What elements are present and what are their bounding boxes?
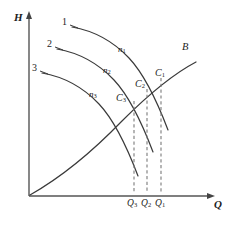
operating-point-label-c3: C3 [116, 93, 126, 104]
curve-number-2: 2 [47, 39, 52, 49]
system-curve-b [30, 62, 196, 195]
x-tick-label-q2: Q2 [141, 199, 151, 209]
operating-point-c3-sub: 3 [123, 96, 126, 103]
curve-number-1: 1 [62, 17, 67, 27]
speed-label-n1-sub: 1 [123, 47, 126, 54]
operating-point-c2-sub: 2 [142, 82, 145, 89]
speed-label-n3: n3 [89, 90, 97, 100]
x-tick-q2-sub: 2 [148, 201, 151, 208]
system-curve-label-b: B [182, 42, 188, 53]
speed-label-n3-sub: 3 [94, 92, 97, 99]
x-tick-label-q1: Q1 [155, 199, 165, 209]
x-tick-q1-base: Q [155, 198, 162, 208]
operating-point-c2-base: C [135, 78, 142, 89]
operating-point-c1-sub: 1 [162, 71, 165, 78]
operating-point-label-c2: C2 [135, 79, 145, 90]
y-axis-label: H [14, 12, 23, 23]
plot-canvas [0, 0, 242, 226]
x-axis-label: Q [214, 199, 222, 210]
x-tick-q3-sub: 3 [134, 201, 137, 208]
x-tick-q3-base: Q [127, 198, 134, 208]
x-tick-q1-sub: 1 [162, 201, 165, 208]
pump-curve-n1 [72, 27, 168, 130]
curve-number-3: 3 [32, 63, 37, 73]
y-axis-arrow-icon [26, 11, 32, 19]
speed-label-n2: n2 [103, 66, 111, 76]
operating-point-c1-base: C [155, 67, 162, 78]
x-tick-label-q3: Q3 [127, 199, 137, 209]
operating-point-label-c1: C1 [155, 68, 165, 79]
speed-label-n1: n1 [118, 45, 126, 55]
x-tick-q2-base: Q [141, 198, 148, 208]
pump-system-curve-figure: H Q 1 2 3 n1 n2 n3 B C1 C2 C3 Q3 Q2 Q1 [0, 0, 242, 226]
speed-label-n2-sub: 2 [108, 68, 111, 75]
operating-point-c3-base: C [116, 92, 123, 103]
